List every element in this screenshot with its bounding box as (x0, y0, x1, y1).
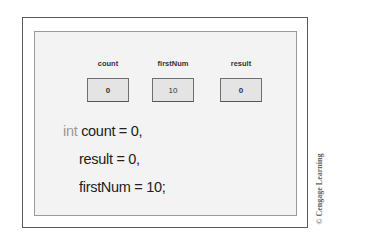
code-line-1: int count = 0, (63, 123, 142, 139)
variable-box-result: 0 (220, 78, 262, 102)
variable-box-count: 0 (87, 78, 129, 102)
variable-label-firstnum: firstNum (143, 59, 203, 68)
variable-value-count: 0 (106, 86, 110, 95)
copyright-notice: © Cengage Learning (315, 154, 324, 225)
variable-box-firstnum: 10 (152, 78, 194, 102)
variable-label-count: count (78, 59, 138, 68)
code-keyword-int: int (63, 123, 77, 139)
variable-value-result: 0 (239, 86, 243, 95)
variable-label-result: result (211, 59, 271, 68)
code-line-2: result = 0, (79, 151, 140, 167)
code-line-3: firstNum = 10; (79, 179, 165, 195)
code-line-1-text: count = 0, (81, 123, 142, 139)
variable-value-firstnum: 10 (169, 86, 178, 95)
diagram-canvas: count 0 firstNum 10 result 0 int count =… (0, 0, 392, 252)
